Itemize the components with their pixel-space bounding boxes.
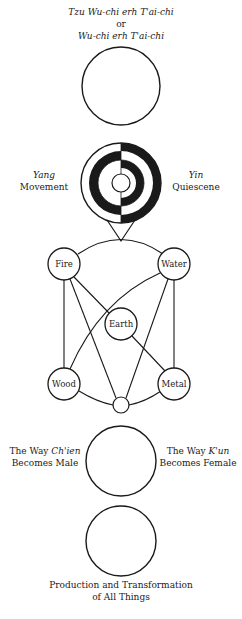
wood-label: Wood xyxy=(52,379,76,389)
chien-kun-circle xyxy=(86,426,156,496)
chien-name: Ch'ien xyxy=(51,446,80,456)
node-wood: Wood xyxy=(48,368,80,400)
chien-line-1: The Way Ch'ien xyxy=(4,446,86,457)
yin-name: Yin xyxy=(166,170,226,181)
chien-prefix: The Way xyxy=(10,446,52,456)
chien-label: Becomes Male xyxy=(4,458,86,469)
bottom-line-1: Production and Transformation xyxy=(0,580,242,591)
water-label: Water xyxy=(161,259,188,269)
metal-label: Metal xyxy=(162,379,187,389)
node-fire: Fire xyxy=(48,248,80,280)
kun-label: Becomes Female xyxy=(156,458,240,469)
yang-label: Movement xyxy=(14,182,74,193)
node-metal: Metal xyxy=(158,368,190,400)
production-circle xyxy=(86,506,156,576)
kun-line-1: The Way K'un xyxy=(156,446,240,457)
wuji-circle xyxy=(82,47,160,125)
yang-name: Yang xyxy=(14,170,74,181)
node-earth: Earth xyxy=(105,308,137,340)
node-water: Water xyxy=(158,248,190,280)
taiji-diagram: Fire Water Earth Wood Metal xyxy=(0,0,242,619)
yin-yang-circle xyxy=(81,143,161,223)
bottom-line-2: of All Things xyxy=(0,592,242,603)
yin-label: Quiescene xyxy=(166,182,226,193)
earth-label: Earth xyxy=(109,319,134,329)
fire-label: Fire xyxy=(55,259,73,269)
small-union-circle xyxy=(113,397,129,413)
kun-name: K'un xyxy=(208,446,229,456)
arc-fire-water xyxy=(78,240,163,255)
kun-prefix: The Way xyxy=(167,446,209,456)
